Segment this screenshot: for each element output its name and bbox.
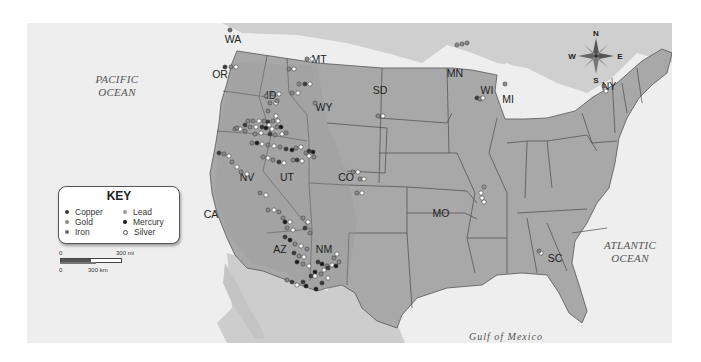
site-silver (299, 145, 303, 149)
site-copper (326, 266, 330, 270)
map-key: KEY Copper Gold Iron Lead Mercury Silver (58, 186, 180, 244)
site-silver (480, 196, 484, 200)
site-copper (268, 132, 272, 136)
site-mercury (295, 260, 299, 264)
mercury-dot-icon (123, 220, 127, 224)
site-gold (235, 126, 239, 130)
site-mercury (290, 148, 294, 152)
svg-text:OCEAN: OCEAN (98, 86, 136, 98)
key-label: Gold (75, 217, 93, 227)
site-gold (248, 125, 252, 129)
site-gold (291, 158, 295, 162)
site-silver (302, 255, 306, 259)
site-silver (272, 208, 276, 212)
site-silver (267, 123, 271, 127)
site-silver (335, 252, 339, 256)
scale-bar-km (60, 262, 96, 264)
site-gold (251, 119, 255, 123)
key-label: Mercury (133, 217, 164, 227)
site-copper (309, 274, 313, 278)
site-copper (307, 149, 311, 153)
site-copper (303, 226, 307, 230)
silver-dot-icon (123, 230, 128, 235)
scale-mi-zero: 0 (59, 250, 62, 256)
site-silver (235, 165, 239, 169)
site-gold (239, 170, 243, 174)
site-gold (285, 278, 289, 282)
site-silver (292, 67, 296, 71)
site-mercury (255, 141, 259, 145)
site-gold (246, 119, 250, 123)
site-gold (337, 260, 341, 264)
key-item-mercury: Mercury (123, 217, 164, 227)
site-silver (306, 220, 310, 224)
site-silver (362, 177, 366, 181)
site-gold (222, 152, 226, 156)
site-iron (602, 84, 606, 88)
site-gold (271, 119, 275, 123)
site-gold (262, 119, 266, 123)
site-silver (322, 268, 326, 272)
site-copper (283, 235, 287, 239)
svg-text:OCEAN: OCEAN (611, 252, 649, 264)
site-gold (301, 216, 305, 220)
site-silver (360, 191, 364, 195)
site-copper (290, 280, 294, 284)
site-gold (319, 272, 323, 276)
site-gold (273, 133, 277, 137)
key-item-silver: Silver (123, 227, 155, 237)
site-gold (503, 82, 507, 86)
site-gold (230, 160, 234, 164)
site-silver (274, 114, 278, 118)
compass-n: N (593, 29, 599, 38)
site-copper (316, 260, 320, 264)
site-gold (261, 155, 265, 159)
scale-km-zero: 0 (59, 267, 62, 273)
key-item-gold: Gold (65, 217, 93, 227)
site-silver (481, 96, 485, 100)
site-copper (292, 251, 296, 255)
site-silver (280, 132, 284, 136)
state-label-or: OR (212, 68, 228, 80)
key-item-copper: Copper (65, 207, 103, 217)
key-label: Lead (133, 207, 152, 217)
site-gold (266, 208, 270, 212)
site-gold (250, 141, 254, 145)
site-silver (310, 57, 314, 61)
site-silver (482, 200, 486, 204)
site-gold (281, 216, 285, 220)
site-gold (268, 101, 272, 105)
iron-dot-icon (65, 230, 69, 234)
site-gold (287, 67, 291, 71)
site-silver (276, 119, 280, 123)
site-mercury (288, 238, 292, 242)
key-label: Iron (75, 227, 90, 237)
site-silver (272, 144, 276, 148)
scale-mi-max: 300 mi (116, 250, 134, 256)
site-copper (295, 158, 299, 162)
pacific-ocean-label: PACIFIC OCEAN (95, 73, 139, 98)
site-gold (284, 131, 288, 135)
state-label-az: AZ (273, 243, 287, 255)
site-silver (308, 82, 312, 86)
key-title: KEY (59, 189, 179, 203)
compass-s: S (593, 76, 599, 84)
site-gold (358, 177, 362, 181)
site-gold (294, 146, 298, 150)
lead-dot-icon (123, 210, 127, 214)
site-silver (227, 154, 231, 158)
site-gold (229, 65, 233, 69)
site-copper (277, 160, 281, 164)
site-silver (299, 244, 303, 248)
site-gold (293, 242, 297, 246)
site-gold (275, 99, 279, 103)
site-gold (266, 109, 270, 113)
site-gold (271, 158, 275, 162)
site-silver (277, 92, 281, 96)
site-gold (313, 101, 317, 105)
site-silver (479, 191, 483, 195)
site-silver (282, 161, 286, 165)
site-copper (260, 125, 264, 129)
site-silver (254, 125, 258, 129)
site-mercury (334, 264, 338, 268)
